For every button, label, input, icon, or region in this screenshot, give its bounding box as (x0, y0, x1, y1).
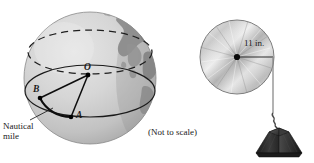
point-B-marker (38, 96, 43, 101)
weight-base-front (256, 153, 302, 157)
globe-group (24, 7, 168, 144)
figure-canvas (0, 0, 314, 163)
point-O-marker (86, 73, 91, 78)
pulley-hub (234, 54, 240, 60)
weight-group (256, 128, 302, 157)
figure-container: O B A Nauticalmile (Not to scale) 11 in. (0, 0, 314, 163)
rope-twisted-segment (272, 113, 275, 126)
pulley-group (200, 20, 302, 157)
point-A-marker (69, 115, 74, 120)
globe-limb-shadow (116, 12, 168, 144)
land-mass-top-edge (103, 7, 133, 16)
globe-highlight (34, 22, 94, 74)
